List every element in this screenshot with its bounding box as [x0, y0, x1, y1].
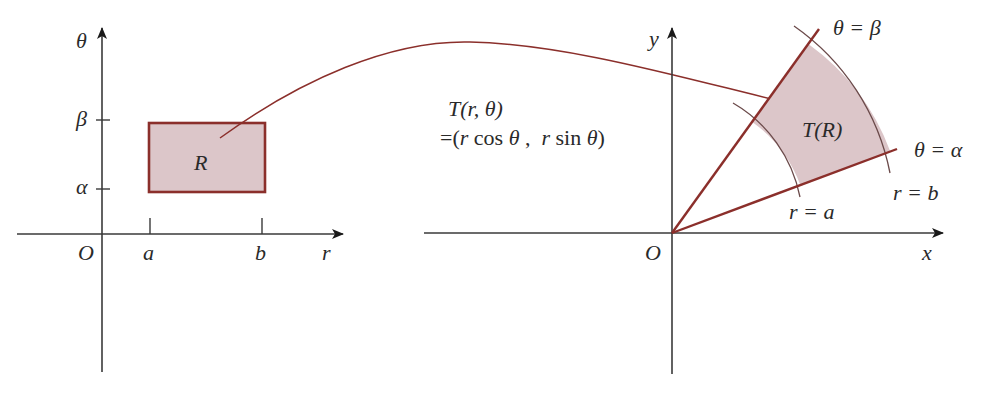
- figure-graphics: [0, 0, 988, 393]
- right-origin-label: O: [645, 242, 661, 264]
- alpha-tick-label: α: [76, 176, 88, 198]
- transform-line1: T(r, θ): [448, 96, 503, 121]
- mapping-arrow: [220, 42, 796, 138]
- formula-r2: r: [541, 125, 550, 150]
- formula-theta1: θ: [509, 125, 520, 150]
- b-tick-label: b: [255, 242, 266, 264]
- region-R-label: R: [194, 152, 207, 174]
- right-x-axis-label: x: [922, 242, 932, 264]
- region-T-R-label: T(R): [802, 119, 842, 141]
- formula-cos: cos: [468, 125, 508, 150]
- ray-alpha-label: θ = α: [914, 139, 962, 161]
- left-origin-label: O: [78, 242, 94, 264]
- formula-close: ): [598, 125, 605, 150]
- left-axes: [17, 28, 343, 372]
- formula-r1: r: [460, 125, 469, 150]
- polar-transform-figure: θ r O β α a b R T(r, θ) =(r cos θ , r si…: [0, 0, 988, 393]
- beta-tick-label: β: [76, 108, 87, 130]
- left-r-axis-label: r: [322, 242, 331, 264]
- formula-sin: sin: [550, 125, 587, 150]
- ray-beta-label: θ = β: [833, 17, 881, 39]
- left-theta-axis-label: θ: [76, 30, 87, 52]
- arc-b-label: r = b: [893, 182, 938, 204]
- formula-theta2: θ: [587, 125, 598, 150]
- ray-theta-alpha: [672, 149, 897, 233]
- transform-formula: =(r cos θ , r sin θ): [440, 127, 605, 149]
- arc-a-label: r = a: [789, 201, 834, 223]
- right-y-axis-label: y: [649, 28, 659, 50]
- right-axes: [424, 28, 943, 374]
- a-tick-label: a: [143, 242, 154, 264]
- formula-open: =(: [440, 125, 460, 150]
- transform-definition: T(r, θ): [448, 98, 503, 120]
- formula-sep: ,: [519, 125, 541, 150]
